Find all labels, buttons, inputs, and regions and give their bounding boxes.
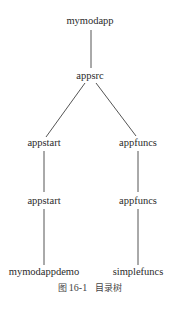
caption-title: 目录树 [95, 283, 122, 293]
directory-tree-diagram: mymodapp appsrc appstart appfuncs appsta… [0, 0, 174, 309]
node-appstart: appstart [27, 138, 60, 149]
figure-caption: 图16-1目录树 [58, 283, 122, 293]
caption-number: 16-1 [69, 282, 87, 293]
caption-prefix: 图 [58, 283, 67, 293]
edge-src-appfuncs [96, 83, 136, 136]
node-mymodappdemo: mymodappdemo [9, 267, 80, 278]
node-mymodapp: mymodapp [66, 16, 113, 27]
edge-src-appstart [46, 83, 85, 137]
node-simplefuncs: simplefuncs [113, 267, 164, 278]
node-appstart-inner: appstart [27, 196, 60, 207]
node-appfuncs-inner: appfuncs [119, 196, 157, 207]
node-appfuncs: appfuncs [119, 138, 157, 149]
tree-edges [0, 0, 174, 309]
node-appsrc: appsrc [76, 71, 103, 82]
